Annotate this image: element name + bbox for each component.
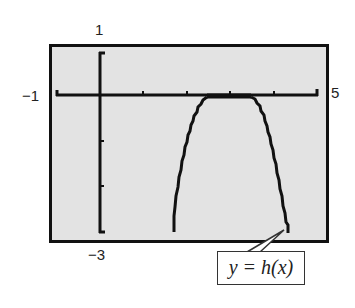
ymax-label: 1: [95, 22, 103, 37]
ymin-label: −3: [88, 247, 105, 262]
xmin-label: −1: [22, 88, 39, 103]
xmax-label: 5: [331, 85, 339, 100]
callout-pointer: [247, 230, 284, 252]
curve-h: [174, 97, 207, 232]
curve-h-right: [251, 97, 288, 233]
function-label: y = h(x): [217, 251, 305, 285]
